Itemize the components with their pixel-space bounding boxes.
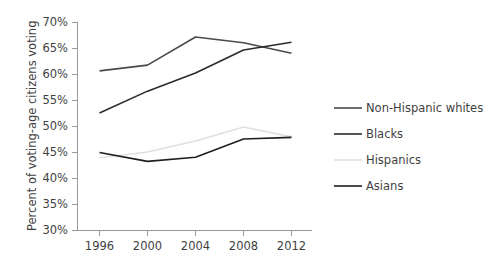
line-chart: Percent of voting-age citizens voting 70… — [0, 0, 501, 271]
y-tick-label-70: 70% — [42, 15, 68, 29]
y-tick-label-35: 35% — [42, 197, 68, 211]
y-tick-label-55: 55% — [42, 93, 68, 107]
chart-canvas: Percent of voting-age citizens voting 70… — [0, 0, 501, 271]
y-tick-label-30: 30% — [42, 223, 68, 237]
chart-legend: Non-Hispanic whitesBlacksHispanicsAsians — [334, 101, 483, 193]
x-tick-label-1996: 1996 — [85, 239, 114, 253]
y-axis-title: Percent of voting-age citizens voting — [25, 21, 39, 231]
legend-label-0: Non-Hispanic whites — [366, 101, 483, 115]
x-tick-label-2004: 2004 — [181, 239, 210, 253]
legend-label-2: Hispanics — [366, 153, 421, 167]
legend-label-1: Blacks — [366, 127, 403, 141]
y-tick-label-40: 40% — [42, 171, 68, 185]
y-tick-label-45: 45% — [42, 145, 68, 159]
y-tick-label-50: 50% — [42, 119, 68, 133]
series-line-blacks — [100, 42, 292, 113]
x-tick-label-2008: 2008 — [229, 239, 258, 253]
series-line-non-hispanic-whites — [100, 37, 292, 71]
y-tick-label-65: 65% — [42, 41, 68, 55]
series-group — [100, 37, 292, 161]
legend-label-3: Asians — [366, 179, 403, 193]
x-tick-label-2012: 2012 — [277, 239, 306, 253]
x-tick-label-2000: 2000 — [133, 239, 162, 253]
series-line-hispanics — [100, 127, 292, 158]
y-tick-label-60: 60% — [42, 67, 68, 81]
